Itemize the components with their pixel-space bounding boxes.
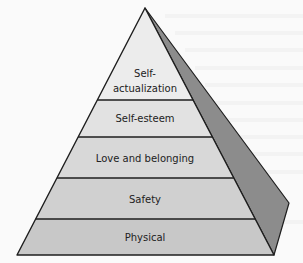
label-love-and-belonging: Love and belonging [96,153,194,164]
label-physical: Physical [125,232,166,243]
pyramid-diagram: Self- actualization Self-esteem Love and… [0,0,303,263]
label-safety: Safety [129,194,161,205]
label-self-actualization-line1: Self- [134,68,156,79]
label-self-actualization-line2: actualization [113,83,177,94]
label-self-esteem: Self-esteem [115,113,174,124]
pyramid-svg: Self- actualization Self-esteem Love and… [0,0,303,263]
